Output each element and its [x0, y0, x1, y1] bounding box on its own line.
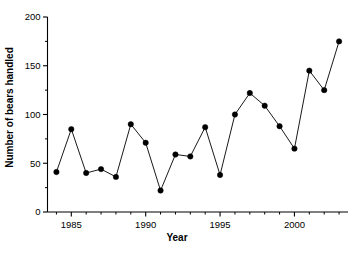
data-point [307, 68, 312, 73]
data-point [54, 169, 59, 174]
data-point [247, 90, 252, 95]
x-axis-title-text: Year [166, 232, 187, 243]
data-point [113, 174, 118, 179]
plot-area: 050100150200 1985199019952000 [0, 0, 354, 255]
data-point [336, 39, 341, 44]
data-point [217, 172, 222, 177]
data-point [292, 146, 297, 151]
data-point [173, 152, 178, 157]
data-point [277, 124, 282, 129]
y-tick-label: 200 [25, 11, 41, 22]
data-point [69, 126, 74, 131]
x-axis-tick-labels: 1985199019952000 [61, 219, 305, 230]
x-tick-label: 1990 [135, 219, 156, 230]
x-tick-label: 1995 [209, 219, 230, 230]
y-tick-label: 100 [25, 109, 41, 120]
x-axis-title: Year [0, 232, 354, 243]
data-point [158, 188, 163, 193]
data-point [262, 103, 267, 108]
chart-figure: Number of bears handled 050100150200 198… [0, 0, 354, 255]
data-point [83, 170, 88, 175]
x-tick-label: 1985 [61, 219, 82, 230]
x-axis-major-ticks [71, 212, 294, 217]
data-point [202, 124, 207, 129]
data-point [232, 112, 237, 117]
data-point [128, 122, 133, 127]
y-axis-tick-labels: 050100150200 [25, 11, 41, 217]
y-tick-label: 0 [35, 206, 40, 217]
data-point [143, 140, 148, 145]
y-tick-label: 50 [30, 158, 41, 169]
data-point [98, 166, 103, 171]
y-tick-label: 150 [25, 60, 41, 71]
x-tick-label: 2000 [284, 219, 305, 230]
y-axis-major-ticks [43, 17, 48, 212]
data-point [188, 154, 193, 159]
data-point [321, 87, 326, 92]
